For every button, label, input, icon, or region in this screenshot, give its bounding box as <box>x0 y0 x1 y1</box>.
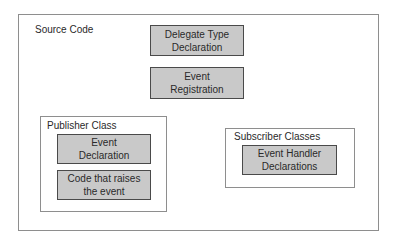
subscriber-classes-label: Subscriber Classes <box>234 131 320 143</box>
delegate-type-declaration-box: Delegate Type Declaration <box>150 25 244 56</box>
publisher-class-label: Publisher Class <box>47 120 116 132</box>
event-declaration-box: Event Declaration <box>57 134 151 164</box>
source-code-label: Source Code <box>35 24 93 36</box>
raise-event-code-box: Code that raises the event <box>57 170 151 200</box>
event-handler-declarations-box: Event Handler Declarations <box>242 145 337 175</box>
event-registration-box: Event Registration <box>150 67 244 99</box>
